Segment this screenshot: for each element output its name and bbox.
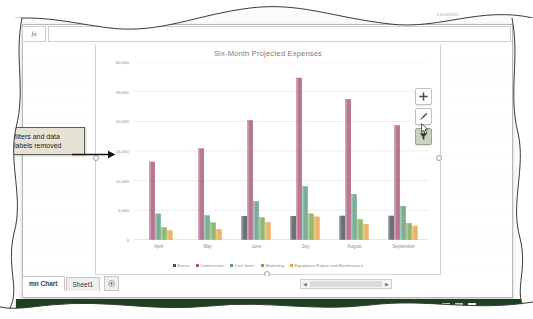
chart-bar bbox=[303, 187, 308, 240]
legend-swatch-icon bbox=[196, 264, 199, 267]
zoom-track[interactable] bbox=[490, 307, 516, 308]
ribbon-ghost-label: Location bbox=[437, 11, 458, 17]
chart-bar bbox=[248, 120, 253, 240]
chart-bar bbox=[242, 216, 247, 240]
legend-swatch-icon bbox=[173, 264, 176, 267]
chart-bar bbox=[357, 220, 362, 240]
chart-bar bbox=[314, 217, 319, 240]
zoom-in-button[interactable]: + bbox=[518, 304, 522, 310]
zoom-out-button[interactable]: − bbox=[485, 304, 489, 310]
chart-bar bbox=[412, 226, 417, 240]
chart-bar bbox=[401, 206, 406, 240]
sheet-tab-sheet1[interactable]: Sheet1 bbox=[66, 277, 101, 291]
chart-bars-svg bbox=[134, 62, 428, 240]
x-axis-tick-label: July bbox=[301, 244, 309, 249]
y-axis-tick-label: 25,000 bbox=[116, 89, 129, 94]
page-break-view-button[interactable] bbox=[468, 303, 476, 311]
chart-bar bbox=[167, 231, 172, 240]
page-layout-view-button[interactable] bbox=[455, 303, 463, 311]
y-axis-tick-label: 20,000 bbox=[116, 119, 129, 124]
legend-item: Bonus bbox=[173, 263, 190, 268]
x-axis-labels: AprilMayJuneJulyAugustSeptember bbox=[134, 244, 428, 254]
paintbrush-icon bbox=[419, 112, 428, 121]
y-axis-tick-label: 5,000 bbox=[118, 208, 129, 213]
chart-bar bbox=[340, 216, 345, 240]
chart-bar bbox=[389, 216, 394, 240]
sheet-tab-bar: mn Chart Sheet1 bbox=[22, 275, 511, 291]
legend-swatch-icon bbox=[290, 264, 293, 267]
chart-bar bbox=[210, 223, 215, 240]
normal-view-button[interactable] bbox=[442, 303, 450, 311]
chart-bar bbox=[265, 223, 270, 241]
chart-bar bbox=[406, 223, 411, 240]
legend-item: Cost Items bbox=[230, 263, 255, 268]
chart-object[interactable]: Six-Month Projected Expenses 05,00010,00… bbox=[95, 44, 441, 275]
chart-bar bbox=[199, 149, 204, 240]
chart-plot-area bbox=[134, 62, 428, 240]
legend-item: Equipment Repair and Maintenance bbox=[290, 263, 363, 268]
legend-label: Equipment Repair and Maintenance bbox=[295, 263, 364, 268]
zoom-knob[interactable] bbox=[499, 305, 501, 310]
legend-swatch-icon bbox=[230, 264, 233, 267]
screenshot-stage: Location fx Six-Mont bbox=[0, 0, 533, 319]
add-sheet-button[interactable] bbox=[104, 276, 119, 291]
chart-legend: BonusCommissionCost ItemsMarketingEquipm… bbox=[96, 263, 440, 268]
y-axis-tick-label: 10,000 bbox=[116, 178, 129, 183]
chart-bar bbox=[352, 194, 357, 240]
chart-bar bbox=[363, 224, 368, 240]
mouse-cursor bbox=[421, 123, 430, 135]
y-axis-tick-label: 0 bbox=[127, 238, 129, 243]
chart-bar bbox=[205, 216, 210, 240]
x-axis-tick-label: June bbox=[252, 244, 262, 249]
chart-bar bbox=[395, 125, 400, 240]
y-axis-tick-label: 30,000 bbox=[116, 60, 129, 65]
formula-bar: fx bbox=[22, 26, 511, 42]
y-axis-tick-label: 15,000 bbox=[116, 149, 129, 154]
x-axis-tick-label: April bbox=[154, 244, 163, 249]
chart-bar bbox=[150, 162, 155, 240]
legend-item: Commission bbox=[196, 263, 224, 268]
formula-input[interactable] bbox=[48, 26, 511, 42]
chart-bar bbox=[156, 214, 161, 240]
legend-label: Cost Items bbox=[234, 263, 255, 268]
selection-handle-right[interactable] bbox=[436, 155, 442, 161]
sheet-tab-column-chart[interactable]: mn Chart bbox=[22, 276, 65, 291]
chart-side-buttons bbox=[415, 88, 432, 148]
chart-elements-button[interactable] bbox=[415, 88, 432, 105]
chart-bar bbox=[254, 201, 259, 240]
legend-item: Marketing bbox=[261, 263, 284, 268]
status-bar: − + bbox=[16, 299, 530, 315]
chart-bar bbox=[259, 218, 264, 240]
legend-label: Bonus bbox=[177, 263, 189, 268]
chart-bar bbox=[291, 216, 296, 240]
chart-bar bbox=[346, 99, 351, 240]
chart-bar bbox=[308, 214, 313, 240]
chart-bar bbox=[161, 228, 166, 240]
plus-circle-icon bbox=[108, 280, 115, 287]
worksheet-surface[interactable]: Six-Month Projected Expenses 05,00010,00… bbox=[23, 44, 510, 276]
chart-bar bbox=[216, 229, 221, 240]
plus-icon bbox=[419, 92, 428, 101]
chart-title: Six-Month Projected Expenses bbox=[96, 49, 440, 58]
x-axis-tick-label: May bbox=[203, 244, 212, 249]
chart-bar bbox=[297, 78, 302, 240]
legend-label: Marketing bbox=[265, 263, 284, 268]
zoom-slider[interactable]: − + bbox=[485, 304, 522, 310]
legend-label: Commission bbox=[200, 263, 224, 268]
x-axis-tick-label: September bbox=[392, 244, 414, 249]
callout-arrow bbox=[72, 150, 116, 159]
fx-icon: fx bbox=[31, 30, 36, 38]
legend-swatch-icon bbox=[261, 264, 264, 267]
x-axis-tick-label: August bbox=[347, 244, 361, 249]
name-box[interactable]: fx bbox=[22, 26, 46, 42]
